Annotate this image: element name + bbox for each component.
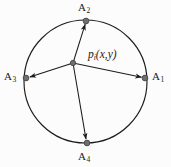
node-label-a2-text: A xyxy=(78,1,86,13)
diagram-canvas: A2 A1 A3 A4 pi(x,y) xyxy=(0,0,171,167)
node-dot-a3[interactable] xyxy=(23,75,29,81)
outer-circle xyxy=(24,20,147,143)
center-node-label: pi(x,y) xyxy=(88,48,117,60)
edge-center-to-a2 xyxy=(73,24,85,63)
node-label-a3-subscript: 3 xyxy=(12,75,16,84)
node-label-a1: A1 xyxy=(152,70,164,82)
node-label-a4: A4 xyxy=(78,150,90,162)
node-dot-a2[interactable] xyxy=(83,18,89,24)
node-label-a4-subscript: 4 xyxy=(86,155,90,164)
node-label-a3: A3 xyxy=(4,70,16,82)
edge-center-to-a3 xyxy=(30,63,73,77)
center-node-label-subscript: i xyxy=(94,53,96,62)
node-dot-a1[interactable] xyxy=(142,75,148,81)
node-label-a4-text: A xyxy=(78,150,86,162)
node-label-a2-subscript: 2 xyxy=(86,6,90,15)
center-node-label-suffix: (x,y) xyxy=(96,48,117,60)
center-node-label-text: p xyxy=(88,48,94,60)
node-dot-a4[interactable] xyxy=(84,140,90,146)
node-label-a1-subscript: 1 xyxy=(160,75,164,84)
node-label-a1-text: A xyxy=(152,70,160,82)
node-dot-center[interactable] xyxy=(70,60,75,65)
diagram-svg xyxy=(0,0,171,167)
node-label-a2: A2 xyxy=(78,1,90,13)
node-label-a3-text: A xyxy=(4,70,12,82)
edge-center-to-a4 xyxy=(73,63,86,139)
edge-center-to-a1 xyxy=(73,63,142,77)
